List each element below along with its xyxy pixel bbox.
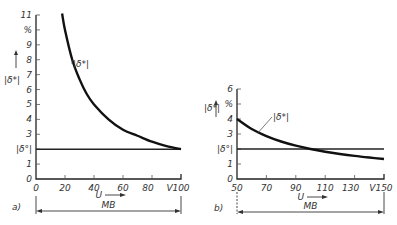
chart-a-y-tick-label: 9	[26, 40, 32, 50]
chart-a-y-tick-label: 6	[26, 85, 32, 95]
chart-b-label-leader	[258, 117, 272, 133]
chart-a-y-tick-label: 1	[26, 159, 32, 169]
chart-a-curve-delta-star	[62, 14, 181, 150]
chart-b-curve-label: |δ*|	[273, 112, 289, 122]
chart-b-y-axis-label: |δ*|	[204, 103, 220, 113]
chart-b-x-arrow-head	[322, 195, 328, 199]
chart-b-y-tick-label: 6	[227, 84, 233, 94]
chart-a-y-axis-label: |δ*|	[4, 75, 20, 85]
chart-a-curve-label: |δ*|	[73, 59, 89, 69]
chart-a-x-tick-label: 80	[142, 183, 154, 193]
chart-a-x-tick-label: 20	[59, 183, 71, 193]
chart-a-y-tick-label: 4	[26, 114, 32, 124]
chart-a-mb-label: MB	[102, 200, 116, 210]
chart-a-panel-label: a)	[12, 202, 21, 212]
chart-a-axes	[36, 15, 181, 179]
chart-b-panel-label: b)	[214, 203, 223, 213]
chart-b-y-tick-label: 3	[227, 129, 233, 139]
chart-a-x-tick-label: 100	[172, 183, 189, 193]
chart-a-x-tick-label: 60	[117, 183, 129, 193]
chart-b-x-tick-label: 130	[342, 183, 359, 193]
chart-b-x-tick-label: 110	[317, 183, 334, 193]
chart-a-mb-arrow-left	[36, 209, 42, 213]
chart-b-mb-arrow-left	[237, 210, 243, 214]
chart-a-x-tick-label: 0	[33, 183, 39, 193]
chart-b-x-tick-label: 150	[375, 183, 392, 193]
chart-a-y-tick-label: 3	[26, 129, 32, 139]
chart-a-x-arrow-head	[120, 193, 126, 197]
chart-a-y-tick-label: %	[23, 25, 32, 35]
chart-canvas: 01|δ°|3456789%11020406080100V|δ*||δ*|UMB…	[0, 0, 397, 225]
figure: 01|δ°|3456789%11020406080100V|δ*||δ*|UMB…	[0, 0, 397, 225]
chart-a-y-tick-label: |δ°|	[16, 144, 32, 154]
chart-a-x-unit: V	[166, 183, 173, 193]
chart-b-x-unit: V	[369, 183, 376, 193]
chart-a-y-tick-label: 8	[26, 55, 32, 65]
chart-b-curve-delta-star	[237, 119, 384, 159]
chart-b-x-tick-label: 50	[231, 183, 243, 193]
chart-a-y-tick-label: 0	[26, 174, 32, 184]
chart-b-y-tick-label: %	[224, 99, 233, 109]
chart-a-y-tick-label: 7	[26, 70, 32, 80]
chart-b-mb-label: MB	[304, 201, 318, 211]
chart-a-y-tick-label: 11	[21, 10, 32, 20]
chart-b-y-tick-label: |δ°|	[217, 144, 233, 154]
chart-b-mb-arrow-right	[378, 210, 384, 214]
chart-b-x-tick-label: 70	[261, 183, 273, 193]
chart-b-y-tick-label: 4	[227, 114, 233, 124]
chart-a-y-tick-label: 5	[26, 99, 32, 109]
chart-a-y-arrow-head	[14, 50, 18, 55]
chart-a-mb-arrow-right	[175, 209, 181, 213]
chart-a-x-axis-label: U	[95, 190, 102, 200]
chart-b-y-tick-label: 1	[227, 159, 233, 169]
